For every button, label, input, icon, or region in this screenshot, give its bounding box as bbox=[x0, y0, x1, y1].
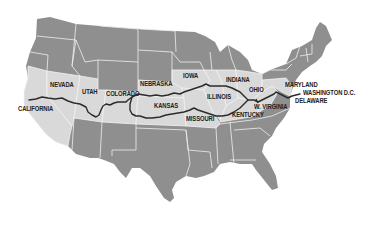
label-nevada: NEVADA bbox=[50, 82, 74, 89]
label-nebraska: NEBRASKA bbox=[140, 81, 172, 88]
label-california: CALIFORNIA bbox=[18, 106, 53, 113]
label-kentucky: KENTUCKY bbox=[232, 112, 264, 119]
label-w-virginia: W. VIRGINIA bbox=[254, 104, 287, 111]
label-delaware: DELAWARE bbox=[295, 98, 327, 105]
label-washington-dc: WASHINGTON D.C. bbox=[303, 90, 355, 97]
label-illinois: ILLINOIS bbox=[207, 94, 231, 101]
label-kansas: KANSAS bbox=[154, 103, 178, 110]
state-kansas bbox=[136, 96, 186, 126]
label-iowa: IOWA bbox=[183, 73, 198, 80]
label-indiana: INDIANA bbox=[226, 77, 250, 84]
label-utah: UTAH bbox=[82, 89, 97, 96]
label-colorado: COLORADO bbox=[106, 91, 139, 98]
label-maryland: MARYLAND bbox=[285, 82, 318, 89]
us-route-map bbox=[0, 0, 369, 227]
label-missouri: MISSOURI bbox=[186, 116, 214, 123]
label-ohio: OHIO bbox=[249, 87, 264, 94]
